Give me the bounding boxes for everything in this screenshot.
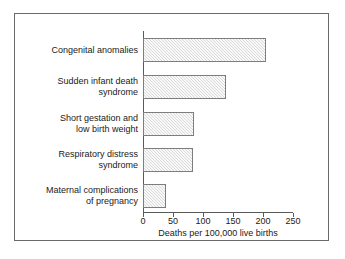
category-label-line1: Maternal complications (46, 185, 138, 195)
category-label-short-gestation-low-birth-weight: Short gestation and low birth weight (60, 113, 138, 135)
category-label-respiratory-distress-syndrome: Respiratory distress syndrome (58, 149, 138, 171)
category-label-line2: of pregnancy (86, 196, 138, 206)
category-label-sudden-infant-death-syndrome: Sudden infant death syndrome (57, 76, 138, 98)
category-label-line1: Sudden infant death (57, 76, 138, 86)
bar-maternal-complications-of-pregnancy (143, 184, 166, 208)
bar-sudden-infant-death-syndrome (143, 75, 226, 99)
bar-respiratory-distress-syndrome (143, 148, 193, 172)
x-tick-label-50: 50 (158, 216, 188, 227)
category-label-line2: syndrome (98, 87, 138, 97)
plot-area: 0 50 100 150 200 250 Deaths per 100,000 … (0, 0, 345, 259)
x-axis-line (143, 212, 293, 213)
category-label-congenital-anomalies: Congenital anomalies (51, 45, 138, 56)
x-tick-label-100: 100 (188, 216, 218, 227)
x-tick-label-200: 200 (248, 216, 278, 227)
bar-congenital-anomalies (143, 38, 266, 62)
category-label-maternal-complications-of-pregnancy: Maternal complications of pregnancy (46, 185, 138, 207)
category-label-line2: low birth weight (76, 124, 138, 134)
x-axis-title: Deaths per 100,000 live births (143, 228, 293, 239)
chart-root: 0 50 100 150 200 250 Deaths per 100,000 … (0, 0, 345, 259)
category-label-line1: Congenital anomalies (51, 45, 138, 55)
x-tick-label-0: 0 (128, 216, 158, 227)
category-label-line2: syndrome (98, 160, 138, 170)
bar-short-gestation-low-birth-weight (143, 112, 194, 136)
category-label-line1: Short gestation and (60, 113, 138, 123)
x-tick-label-150: 150 (218, 216, 248, 227)
x-tick-label-250: 250 (278, 216, 308, 227)
category-label-line1: Respiratory distress (58, 149, 138, 159)
